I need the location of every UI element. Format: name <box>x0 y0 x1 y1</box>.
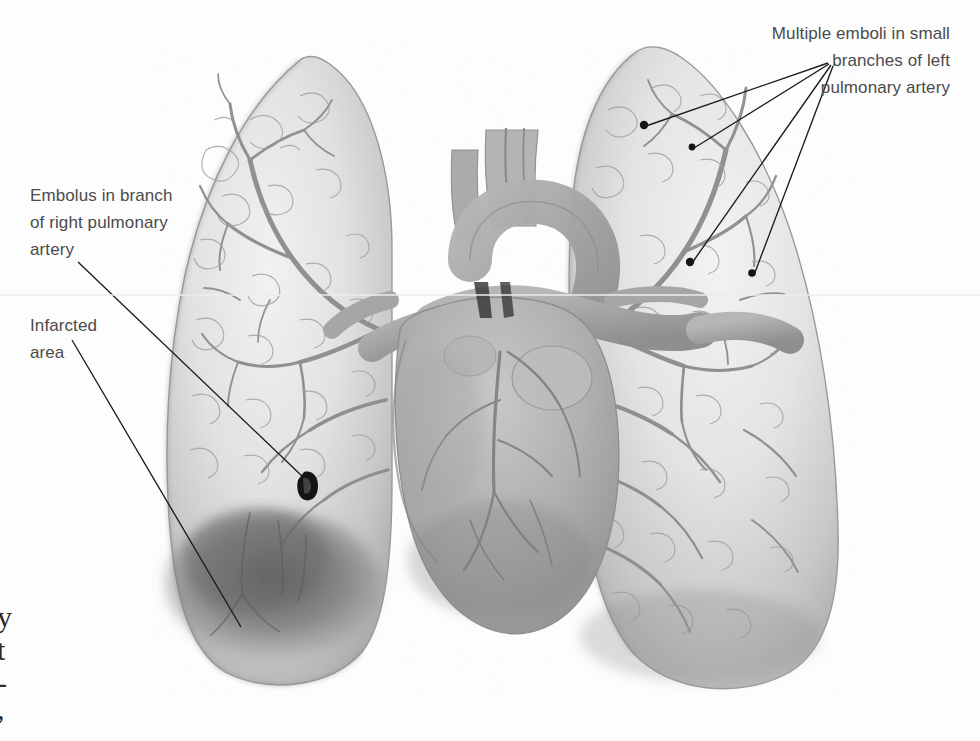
embolus-dot-4 <box>748 269 756 277</box>
embolus-dot-3 <box>686 258 694 266</box>
edge-text-fragment: y <box>0 600 12 633</box>
embolus-dot-1 <box>640 121 648 129</box>
label-infarcted-area: Infarcted area <box>30 312 97 366</box>
label-multiple-emboli-left-pulmonary-artery: Multiple emboli in small branches of lef… <box>620 20 950 101</box>
edge-text-fragment: t <box>0 633 5 666</box>
label-embolus-right-pulmonary-artery: Embolus in branch of right pulmonary art… <box>30 182 173 263</box>
edge-text-fragment: , <box>0 692 5 725</box>
embolus-dot-2 <box>689 144 696 151</box>
pulmonary-embolism-figure: Embolus in branch of right pulmonary art… <box>0 0 980 741</box>
anatomy-illustration <box>0 0 980 741</box>
